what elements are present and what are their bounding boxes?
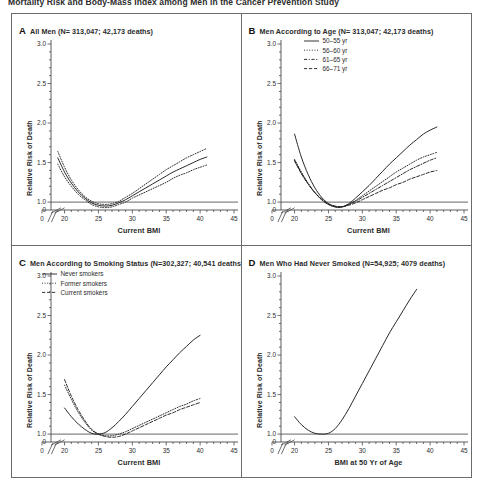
series-line <box>294 289 416 434</box>
legend-label: Never smokers <box>61 270 104 277</box>
series-line <box>58 164 207 207</box>
x-tick-label: 20 <box>61 447 69 454</box>
x-tick-label: 30 <box>358 215 366 222</box>
panel-d: DMen Who Had Never Smoked (N=54,925; 407… <box>242 246 472 478</box>
panel-c-plot: 1.01.52.02.53.000202530354045Never smoke… <box>12 246 241 478</box>
x-tick-label: 45 <box>460 447 468 454</box>
series-line <box>294 161 436 207</box>
panel-b-xlabel: Current BMI <box>284 226 454 235</box>
panel-d-canvas: 1.01.52.02.53.000202530354045 <box>242 246 472 478</box>
x-tick-label: 35 <box>163 447 171 454</box>
panel-b-plot: 1.01.52.02.53.00020253035404550–55 yr56–… <box>242 14 472 245</box>
legend-label: Former smokers <box>61 279 108 286</box>
y-tick-label: 2.5 <box>37 80 46 87</box>
panel-a-plot: 1.01.52.02.53.000202530354045 <box>12 14 241 245</box>
panel-d-plot: 1.01.52.02.53.000202530354045 <box>242 246 472 478</box>
x-tick-label: 45 <box>460 215 468 222</box>
x-zero-label: 0 <box>40 447 44 454</box>
x-tick-label: 30 <box>129 447 137 454</box>
y-zero-label: 0 <box>42 438 46 445</box>
y-tick-label: 1.0 <box>267 198 276 205</box>
panel-c-ylabel: Relative Risk of Death <box>26 352 33 428</box>
y-tick-label: 2.0 <box>267 119 276 126</box>
panel-b: BMen According to Age (N= 313,047; 42,17… <box>242 14 472 246</box>
x-tick-label: 40 <box>197 447 205 454</box>
y-tick-label: 1.5 <box>267 159 276 166</box>
legend-label: 66–71 yr <box>322 65 348 73</box>
legend: Never smokersFormer smokersCurrent smoke… <box>42 270 108 295</box>
y-tick-label: 1.5 <box>267 390 276 397</box>
panel-b-canvas: 1.01.52.02.53.00020253035404550–55 yr56–… <box>242 14 472 246</box>
x-tick-label: 25 <box>95 215 103 222</box>
x-tick-label: 40 <box>426 215 434 222</box>
y-tick-label: 2.0 <box>37 119 46 126</box>
panel-b-ylabel: Relative Risk of Death <box>256 120 263 196</box>
legend-label: 61–65 yr <box>322 56 348 64</box>
legend: 50–55 yr56–60 yr61–65 yr66–71 yr <box>304 37 348 73</box>
y-tick-label: 2.0 <box>37 351 46 358</box>
x-zero-label: 0 <box>270 215 274 222</box>
panel-d-xlabel: BMI at 50 Yr of Age <box>284 458 454 467</box>
x-tick-label: 30 <box>358 447 366 454</box>
panel-c-canvas: 1.01.52.02.53.000202530354045Never smoke… <box>12 246 242 478</box>
figure-top-title: Mortality Risk and Body-Mass Index among… <box>8 0 478 10</box>
y-zero-label: 0 <box>42 206 46 213</box>
panel-d-ylabel: Relative Risk of Death <box>256 352 263 428</box>
series-line <box>58 157 207 206</box>
y-tick-label: 1.5 <box>37 390 46 397</box>
x-tick-label: 40 <box>197 215 205 222</box>
panel-a-canvas: 1.01.52.02.53.000202530354045 <box>12 14 242 246</box>
x-tick-label: 25 <box>95 447 103 454</box>
panel-c-xlabel: Current BMI <box>54 458 224 467</box>
legend-label: 50–55 yr <box>322 37 348 45</box>
y-tick-label: 3.0 <box>267 272 276 279</box>
y-tick-label: 1.5 <box>37 159 46 166</box>
y-zero-label: 0 <box>272 206 276 213</box>
y-tick-label: 2.5 <box>267 80 276 87</box>
y-zero-label: 0 <box>272 438 276 445</box>
panel-a: AAll Men (N= 313,047; 42,173 deaths) 1.0… <box>12 14 242 246</box>
panel-grid: AAll Men (N= 313,047; 42,173 deaths) 1.0… <box>11 13 472 478</box>
series-line <box>294 158 436 207</box>
x-zero-label: 0 <box>270 447 274 454</box>
x-tick-label: 20 <box>61 215 69 222</box>
series-line <box>65 335 201 434</box>
x-tick-label: 25 <box>324 447 332 454</box>
figure-root: Mortality Risk and Body-Mass Index among… <box>0 0 482 485</box>
y-tick-label: 2.5 <box>37 311 46 318</box>
panel-a-ylabel: Relative Risk of Death <box>26 120 33 196</box>
x-tick-label: 35 <box>392 447 400 454</box>
legend-label: 56–60 yr <box>322 47 348 55</box>
x-tick-label: 35 <box>163 215 171 222</box>
panel-a-xlabel: Current BMI <box>54 226 224 235</box>
legend-label: Current smokers <box>61 288 108 295</box>
series-line <box>294 152 436 207</box>
x-tick-label: 45 <box>230 447 238 454</box>
y-tick-label: 3.0 <box>37 272 46 279</box>
y-tick-label: 1.0 <box>37 198 46 205</box>
x-tick-label: 40 <box>426 447 434 454</box>
x-tick-label: 20 <box>291 447 299 454</box>
series-line <box>65 385 201 436</box>
y-tick-label: 3.0 <box>37 40 46 47</box>
y-tick-label: 2.0 <box>267 351 276 358</box>
x-tick-label: 20 <box>291 215 299 222</box>
x-tick-label: 45 <box>230 215 238 222</box>
y-tick-label: 3.0 <box>267 40 276 47</box>
y-tick-label: 1.0 <box>37 430 46 437</box>
x-tick-label: 25 <box>324 215 332 222</box>
x-zero-label: 0 <box>40 215 44 222</box>
x-tick-label: 30 <box>129 215 137 222</box>
x-tick-label: 35 <box>392 215 400 222</box>
panel-c: CMen According to Smoking Status (N=302,… <box>12 246 242 478</box>
y-tick-label: 1.0 <box>267 430 276 437</box>
y-tick-label: 2.5 <box>267 311 276 318</box>
